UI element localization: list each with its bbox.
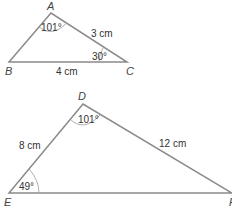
vertex-label-c: C — [126, 65, 134, 77]
angle-label-d: 101° — [78, 114, 99, 125]
angle-label-a: 101° — [41, 22, 62, 33]
vertex-label-d: D — [78, 90, 86, 102]
side-label-bc: 4 cm — [56, 66, 78, 77]
triangle-def — [9, 104, 232, 193]
similar-triangles-diagram: A B C 101° 30° 3 cm 4 cm D E F 101° 49° … — [0, 0, 232, 224]
side-label-df: 12 cm — [159, 138, 186, 149]
vertex-label-f: F — [229, 196, 232, 208]
vertex-label-e: E — [4, 196, 12, 208]
vertex-label-a: A — [46, 0, 54, 12]
angle-label-e: 49° — [19, 181, 34, 192]
vertex-label-b: B — [5, 65, 12, 77]
angle-label-c: 30° — [92, 51, 107, 62]
side-label-de: 8 cm — [19, 140, 41, 151]
side-label-ac: 3 cm — [91, 28, 113, 39]
